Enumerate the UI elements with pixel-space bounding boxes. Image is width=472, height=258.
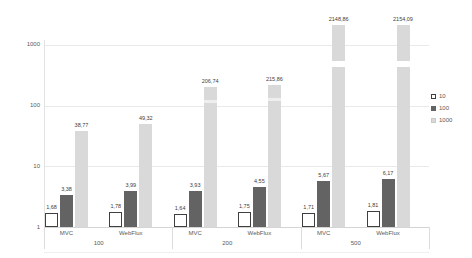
legend-label: 1000 [439, 117, 452, 124]
gridline-100 [44, 106, 429, 107]
bar-100-WebFlux-10 [109, 212, 122, 227]
legend-item-10: 10 [431, 93, 446, 100]
group-label: 100 [74, 240, 124, 247]
bar-value-label: 2148,86 [317, 16, 361, 23]
bar-highlight-stripe [268, 98, 281, 101]
bar-value-label: 206,74 [188, 78, 232, 85]
gridline-1000 [44, 45, 429, 46]
category-label: WebFlux [363, 230, 413, 237]
bar-500-WebFlux-100 [382, 179, 395, 227]
category-label: MVC [299, 230, 349, 237]
group-label: 200 [202, 240, 252, 247]
bar-500-WebFlux-10 [367, 211, 380, 227]
group-label: 500 [331, 240, 381, 247]
group-separator [429, 227, 430, 249]
y-axis-line [44, 40, 45, 227]
legend-swatch-10-icon [431, 94, 436, 99]
bar-value-label: 38,77 [60, 122, 104, 129]
legend-label: 100 [439, 105, 449, 112]
y-tick-label: 10 [8, 163, 40, 170]
bar-value-label: 2154,09 [381, 16, 425, 23]
bar-highlight-stripe [332, 61, 345, 67]
bar-highlight-stripe [204, 100, 217, 103]
bar-200-WebFlux-100 [253, 187, 266, 227]
category-label: MVC [42, 230, 92, 237]
x-axis-line [44, 227, 429, 228]
y-tick-label: 1000 [8, 41, 40, 48]
category-label: MVC [170, 230, 220, 237]
y-tick-label: 100 [8, 102, 40, 109]
legend-swatch-1000-icon [431, 118, 436, 123]
bar-500-WebFlux-1000 [397, 25, 410, 227]
bar-500-MVC-1000 [332, 25, 345, 227]
bar-value-label: 49,32 [124, 115, 168, 122]
bar-200-WebFlux-10 [238, 212, 251, 227]
bar-100-WebFlux-100 [124, 191, 137, 228]
legend-item-100: 100 [431, 105, 449, 112]
bar-100-WebFlux-1000 [139, 124, 152, 227]
legend-item-1000: 1000 [431, 117, 452, 124]
bar-200-MVC-100 [189, 191, 202, 227]
bar-highlight-stripe [397, 61, 410, 67]
category-axis-bottom-line [44, 252, 429, 253]
legend-swatch-100-icon [431, 106, 436, 111]
bar-100-MVC-100 [60, 195, 73, 227]
bar-100-MVC-10 [45, 213, 58, 227]
category-label: WebFlux [234, 230, 284, 237]
bar-value-label: 215,86 [252, 76, 296, 83]
bar-200-WebFlux-1000 [268, 85, 281, 227]
y-tick-label: 1 [8, 224, 40, 231]
bar-500-MVC-10 [302, 213, 315, 227]
bar-chart: 11010010001,683,3838,77MVC1,783,9949,32W… [0, 0, 472, 258]
bar-200-MVC-1000 [204, 87, 217, 228]
bar-100-MVC-1000 [75, 131, 88, 227]
legend-label: 10 [439, 93, 446, 100]
category-label: WebFlux [106, 230, 156, 237]
bar-500-MVC-100 [317, 181, 330, 227]
bar-200-MVC-10 [174, 214, 187, 227]
gridline-10 [44, 166, 429, 167]
